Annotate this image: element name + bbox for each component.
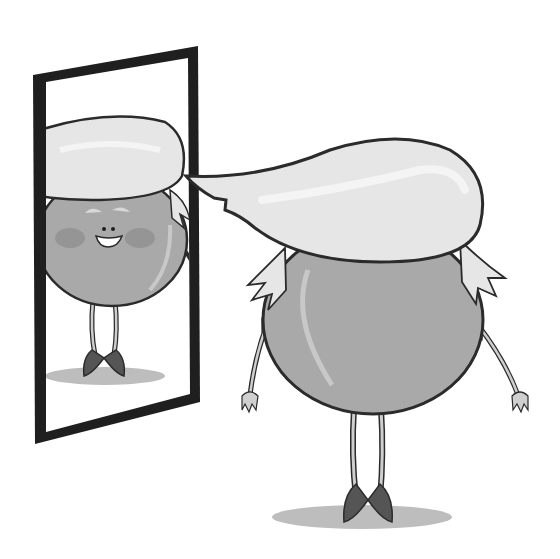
illustration-scene: Cartoon of a round gray character with s… xyxy=(0,0,560,559)
illustration-canvas xyxy=(0,0,560,559)
main-character xyxy=(186,139,528,529)
